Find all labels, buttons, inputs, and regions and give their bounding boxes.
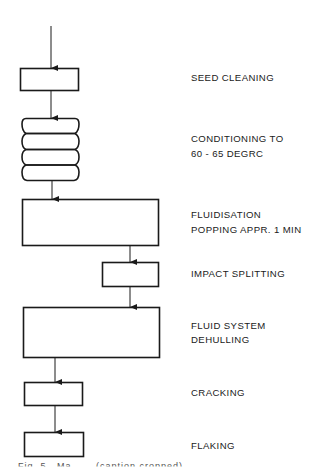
seed-cleaning-box xyxy=(21,69,79,91)
dehulling-box xyxy=(24,308,160,358)
label-fluidisation-line1: FLUIDISATION xyxy=(191,208,261,221)
flaking-box xyxy=(25,433,84,457)
label-dehulling-line1: FLUID SYSTEM xyxy=(191,319,266,332)
label-dehulling-line2: DEHULLING xyxy=(191,333,250,346)
label-flaking: FLAKING xyxy=(191,439,235,452)
label-fluidisation-line2: POPPING APPR. 1 MIN xyxy=(191,223,302,236)
impact-splitting-box xyxy=(103,263,159,287)
label-seed-cleaning: SEED CLEANING xyxy=(191,71,274,84)
cracking-box xyxy=(25,383,83,406)
fluidisation-box xyxy=(23,200,159,246)
label-conditioning-line1: CONDITIONING TO xyxy=(191,132,284,145)
label-impact-splitting: IMPACT SPLITTING xyxy=(191,267,285,280)
label-conditioning-line2: 60 - 65 DEGRC xyxy=(191,147,263,160)
label-cracking: CRACKING xyxy=(191,386,245,399)
process-flow-diagram xyxy=(0,0,333,474)
conditioning-stack xyxy=(22,119,79,181)
